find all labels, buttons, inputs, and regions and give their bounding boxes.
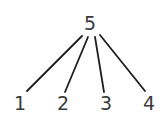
- edge-5-1: [27, 36, 82, 91]
- node-child-2: 2: [57, 92, 69, 114]
- node-child-4: 4: [143, 92, 155, 114]
- node-child-3: 3: [100, 92, 112, 114]
- edge-5-2: [65, 37, 88, 92]
- node-root: 5: [84, 12, 96, 34]
- node-child-1: 1: [14, 92, 26, 114]
- edge-5-3: [95, 37, 104, 92]
- tree-diagram: 5 1 2 3 4: [0, 0, 160, 122]
- edge-5-4: [100, 35, 145, 91]
